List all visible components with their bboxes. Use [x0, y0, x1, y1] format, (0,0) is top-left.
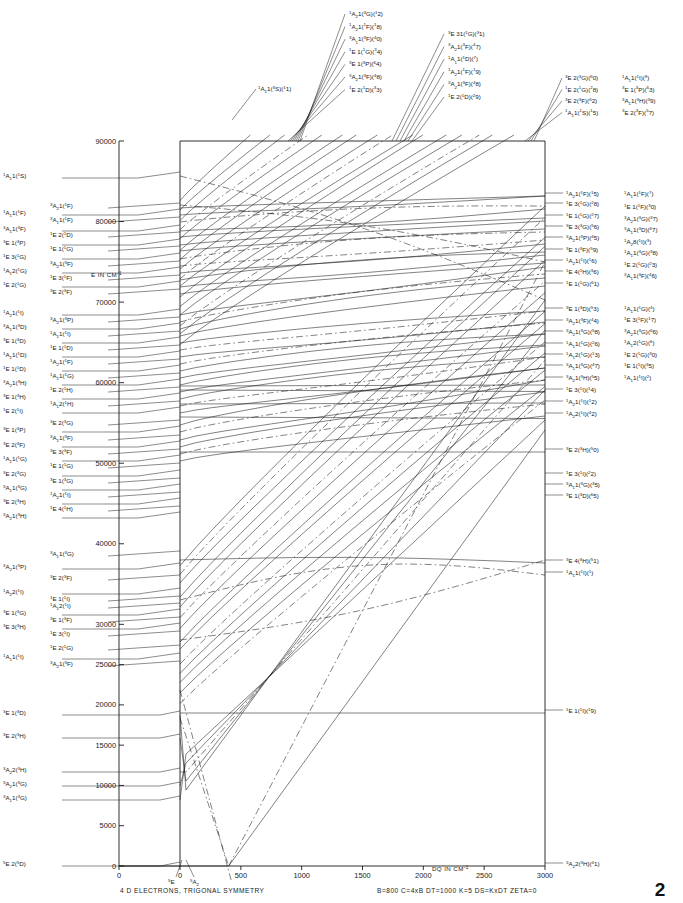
left-inner-term: 3E 1(3F) [50, 616, 72, 623]
right-term-col1: 3A11(3G)(47) [566, 362, 600, 372]
top-exit-curve [180, 135, 322, 239]
right-term-col1: 1A21(1I)(16) [566, 257, 597, 267]
top-left-term: 1A21(1F)(18) [349, 22, 382, 32]
label-leader [138, 337, 180, 343]
y-tick-label: 40000 [95, 539, 116, 548]
correlation-curve [180, 244, 545, 273]
left-inner-term: 3A11(3G) [50, 550, 74, 560]
x-axis-title: DQ IN CM-1 [432, 865, 469, 872]
top-right-term: 3A21(3F)(48) [448, 80, 481, 90]
left-inner-term: 1A21(1F) [50, 358, 73, 368]
right-term-col1: 1E 3(1I)(22) [566, 470, 596, 477]
right-term-col1: 3A21(3P)(45) [566, 234, 599, 244]
descending-curve [180, 690, 231, 880]
correlation-curve [180, 311, 545, 343]
label-leader [138, 172, 180, 178]
top-right-term: 1A21(1F)(19) [448, 67, 481, 77]
label-leader [138, 588, 180, 594]
right-term-col1: 1E 3(1G)(28) [566, 200, 599, 207]
left-outer-term: 1A11(1G) [3, 455, 27, 465]
diagram-canvas: 0500010000150002000025000300004000050000… [0, 0, 683, 903]
x-tick-label: 1500 [354, 871, 370, 880]
left-outer-term: 1E 2(1G) [3, 281, 26, 288]
left-outer-term: 1A22(1I) [3, 588, 24, 598]
page-number: 2 [655, 879, 666, 900]
top-right-term: 3A21(3F)(47) [448, 42, 481, 52]
ground-5A2-rise [229, 430, 545, 866]
left-inner-term: 3E 2(3F) [50, 288, 72, 295]
right-term-col2: 1E 1(1F)(30) [624, 203, 656, 210]
top-right-b-term: 3E 2(3F)(57) [622, 108, 654, 115]
mid-curve-dashed [180, 564, 545, 600]
right-term-col1: 3A21(3G)(58) [566, 328, 600, 338]
y-tick-label: 20000 [95, 700, 116, 709]
left-outer-term: 1A21(1I) [3, 309, 24, 319]
left-outer-term: 3A21(3H) [3, 379, 27, 389]
correlation-curve [180, 274, 545, 322]
correlation-curve [180, 232, 545, 259]
steep-curve [180, 260, 545, 607]
right-term-col2: 1A12(1G)(6) [624, 339, 654, 349]
y-axis-title: E IN CM-1 [91, 271, 122, 278]
steep-curve [180, 281, 545, 618]
left-outer-term: 3A11(3G) [3, 484, 27, 494]
correlation-curve [180, 278, 545, 329]
x-tick-label: 500 [235, 871, 247, 880]
top-left-term: 3A21(3F)(48) [349, 73, 382, 83]
label-leader [160, 768, 180, 772]
left-inner-term: 3A21(3F) [50, 260, 73, 270]
top-label-leader [232, 89, 256, 120]
right-term-col1: 3E 1(3D)(53) [566, 305, 599, 312]
left-outer-term: 1A11(1D) [3, 351, 27, 361]
label-leader [138, 379, 180, 385]
x-tick-label: 3000 [537, 871, 553, 880]
left-outer-term: 3E 2(3F) [3, 441, 25, 448]
top-exit-curve [180, 135, 393, 279]
top-exit-curve [180, 135, 250, 201]
correlation-curve [180, 368, 545, 425]
left-outer-term: 3A22(3H) [3, 766, 27, 776]
label-leader [138, 498, 180, 504]
crossing-label-5E: 5E [168, 878, 175, 885]
left-outer-term: 1E 3(1G) [3, 253, 26, 260]
label-leader [138, 609, 180, 615]
left-outer-term: 1E 1(1D) [3, 365, 26, 372]
y-tick-label: 60000 [95, 378, 116, 387]
label-leader [138, 623, 180, 629]
label-leader [138, 512, 180, 518]
left-outer-term: 3E 2(3H) [3, 732, 26, 739]
top-right-labels: 3E 31(1G)(31)3A21(3F)(47)1A11(1D)(7)1A21… [448, 30, 485, 100]
left-inner-term: 1A11(1G) [50, 372, 74, 382]
right-term-col1: 1A21(1F)(15) [566, 190, 599, 200]
right-term-col1: 3E 2(3H)(50) [566, 446, 599, 453]
steep-curve [180, 237, 545, 583]
y-tick-label: 90000 [95, 137, 116, 146]
right-term-col1: 3A11(3G)(35) [566, 481, 600, 491]
top-exit-curve [180, 135, 270, 210]
label-leader [138, 253, 180, 259]
top-label-leader [288, 90, 345, 141]
y-tick-label: 50000 [95, 459, 116, 468]
top-label-leader [525, 113, 562, 142]
right-term-col1: 1A12(1G)(13) [566, 351, 600, 361]
right-term-col2: 1E 2(1G)(30) [624, 351, 657, 358]
right-term-col2: 1E 3(1F)(17) [624, 316, 656, 323]
top-right-term: 1E 2(1D)(29) [448, 93, 481, 100]
top-exit-curve [180, 135, 285, 221]
left-outer-term: 1E 2(1I) [3, 407, 23, 414]
label-leader [138, 426, 180, 432]
correlation-curve [180, 240, 545, 266]
left-inner-term: 3A21(3F) [50, 660, 73, 670]
label-leader [138, 239, 180, 245]
right-term-col1: 1E 1(1G)(61) [566, 280, 599, 287]
right-term-col2: 1A11(1F)(7) [624, 190, 653, 200]
left-outer-term: 3A21(3H) [3, 512, 27, 522]
left-inner-term: 1E 3(1F) [50, 274, 72, 281]
left-outer-term: 1A11(1I) [3, 653, 24, 663]
right-term-col2: 3A11(3F)(46) [624, 272, 657, 282]
right-term-col1: 3A21(3H)(55) [566, 374, 600, 384]
correlation-curve [180, 357, 545, 399]
right-term-col1: 1E 1(1I)(19) [566, 707, 596, 714]
figure-caption: 4 D ELECTRONS, TRIGONAL SYMMETRY [120, 887, 265, 894]
left-inner-term: 1E 2(1H) [50, 386, 73, 393]
